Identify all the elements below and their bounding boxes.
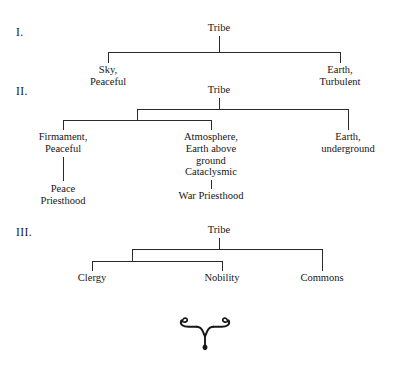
connector-root-stem-1: [219, 36, 220, 52]
connector-drop-1-right: [340, 52, 341, 63]
section-numeral-3: III.: [16, 226, 32, 238]
connector-drop-3-middle: [222, 261, 223, 271]
connector-inner-stem-2: [137, 109, 138, 120]
connector-drop-2-middle: [211, 120, 212, 130]
connector-sub-stem-2-left: [63, 157, 64, 181]
connector-sub-stem-2-middle: [211, 180, 212, 189]
node-child-3-2: Commons: [300, 272, 343, 284]
node-subchild-2-0: Peace Priesthood: [41, 183, 86, 206]
connector-inner-stem-3: [132, 249, 133, 261]
fleuron-terminal-dot: [202, 344, 207, 350]
connector-bar-1: [108, 52, 340, 53]
node-child-1-1: Earth, Turbulent: [319, 64, 360, 87]
connector-outer-bar-2: [137, 109, 348, 110]
connector-outer-bar-3: [132, 249, 322, 250]
connector-root-stem-3: [219, 238, 220, 249]
connector-drop-1-left: [108, 52, 109, 63]
node-child-1-0: Sky, Peaceful: [90, 64, 126, 87]
page-canvas: I. Tribe Sky, Peaceful Earth, Turbulent …: [0, 0, 409, 371]
fleuron-icon: [173, 312, 237, 358]
section-numeral-2: II.: [16, 85, 28, 97]
connector-root-stem-2: [219, 98, 220, 109]
node-child-3-1: Nobility: [204, 272, 239, 284]
connector-drop-3-left: [92, 261, 93, 271]
node-child-2-0: Firmament, Peaceful: [39, 131, 88, 154]
section-numeral-1: I.: [16, 26, 24, 38]
connector-inner-bar-2: [63, 120, 211, 121]
node-child-3-0: Clergy: [78, 272, 106, 284]
node-root-2: Tribe: [208, 84, 230, 96]
node-root-3: Tribe: [208, 224, 230, 236]
connector-drop-2-left: [63, 120, 64, 130]
node-child-2-1: Atmosphere, Earth above ground Cataclysm…: [184, 131, 238, 178]
connector-inner-bar-3: [92, 261, 222, 262]
node-subchild-2-1: War Priesthood: [179, 190, 244, 202]
connector-drop-3-right: [322, 249, 323, 271]
fleuron-ornament: [173, 312, 237, 362]
node-child-2-2: Earth, underground: [321, 131, 374, 154]
node-root-1: Tribe: [208, 22, 230, 34]
connector-drop-2-right: [348, 109, 349, 130]
